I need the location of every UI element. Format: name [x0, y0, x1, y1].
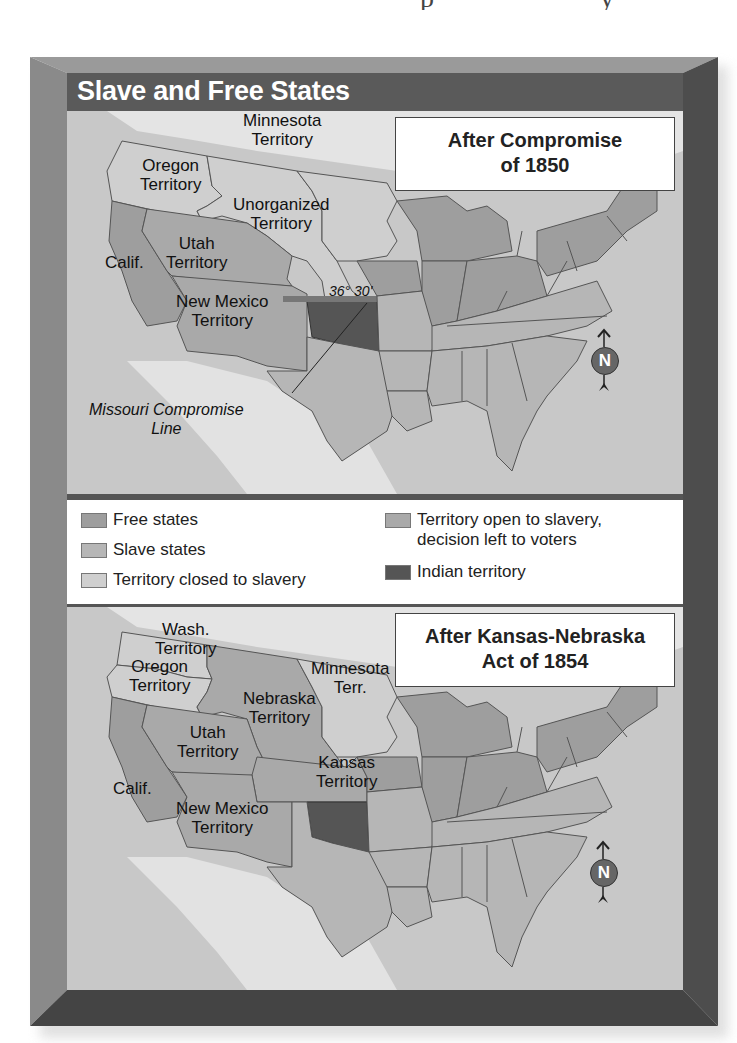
label-oregon-territory: OregonTerritory [140, 156, 201, 194]
label-utah-territory-1854: UtahTerritory [177, 723, 238, 761]
map-1854-title-box: After Kansas-Nebraska Act of 1854 [395, 613, 675, 687]
label-california-1854: Calif. [113, 779, 152, 798]
map-1850-title-line1: After Compromise [396, 128, 674, 153]
map-1854-title-line2: Act of 1854 [396, 649, 674, 674]
compass-rose-1854: N [589, 839, 619, 909]
map-compromise-1850: After Compromise of 1850 MinnesotaTerrit… [67, 111, 683, 494]
label-new-mexico-territory-1854: New MexicoTerritory [176, 799, 269, 837]
clipped-page-text: py [0, 0, 737, 10]
legend-item-territory-closed: Territory closed to slavery [81, 570, 306, 590]
map-legend: Free states Slave states Territory close… [67, 500, 683, 604]
map-kansas-nebraska-1854: After Kansas-Nebraska Act of 1854 Wash.T… [67, 607, 683, 990]
map-1850-title-box: After Compromise of 1850 [395, 117, 675, 191]
territory-open-swatch [385, 513, 411, 528]
label-california: Calif. [105, 253, 144, 272]
label-minnesota-terr: MinnesotaTerr. [311, 659, 389, 697]
label-new-mexico-territory: New MexicoTerritory [176, 292, 269, 330]
indian-territory-swatch [385, 565, 411, 580]
title-bar: Slave and Free States [67, 73, 683, 111]
compass-rose-1850: N [590, 327, 620, 397]
map-figure-frame: Slave and Free States [30, 57, 718, 1026]
legend-item-free-states: Free states [81, 510, 198, 530]
legend-item-territory-open: Territory open to slavery,decision left … [385, 510, 602, 550]
label-unorganized-territory: UnorganizedTerritory [233, 195, 329, 233]
slave-states-swatch [81, 543, 107, 558]
label-missouri-compromise-line: Missouri CompromiseLine [89, 400, 244, 438]
label-minnesota-territory: MinnesotaTerritory [243, 111, 321, 149]
figure-panel: Slave and Free States [67, 73, 683, 990]
label-utah-territory: UtahTerritory [166, 234, 227, 272]
label-36-30-latitude: 36° 30' [329, 282, 372, 301]
north-indicator: N [590, 859, 618, 887]
map-1854-title-line1: After Kansas-Nebraska [396, 624, 674, 649]
legend-item-slave-states: Slave states [81, 540, 206, 560]
label-washington-territory: Wash.Territory [155, 620, 216, 658]
label-nebraska-territory: NebraskaTerritory [243, 689, 316, 727]
free-states-swatch [81, 513, 107, 528]
map-1850-title-line2: of 1850 [396, 153, 674, 178]
label-kansas-territory: KansasTerritory [316, 753, 377, 791]
label-oregon-territory-1854: OregonTerritory [129, 657, 190, 695]
territory-closed-swatch [81, 573, 107, 588]
north-indicator: N [591, 347, 619, 375]
figure-title: Slave and Free States [77, 76, 350, 107]
legend-item-indian-territory: Indian territory [385, 562, 526, 582]
